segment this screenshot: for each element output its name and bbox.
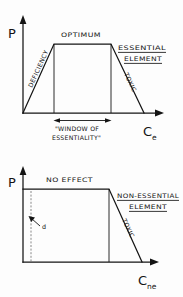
x-axis-label-base-essential: C [143, 124, 152, 139]
y-axis-essential [20, 15, 27, 113]
callout-non-essential-element: NON-ESSENTIAL ELEMENT [117, 192, 179, 211]
region-label-toxic-essential: TOXIC [123, 71, 139, 93]
essential-element-svg: P C e DEFICIENCY OPTIMUM TOXIC ESSENTIAL… [0, 0, 183, 150]
region-label-optimum: OPTIMUM [61, 31, 101, 38]
callout-essential-element: ESSENTIAL ELEMENT [118, 44, 166, 63]
y-axis-label-nonessential: P [8, 175, 16, 190]
x-axis-label-sub-essential: e [152, 133, 157, 142]
x-axis-label-essential: C e [143, 124, 157, 142]
window-measure-arrow [54, 118, 112, 123]
pointer-arrow-d [29, 216, 41, 226]
x-axis-label-nonessential: C ne [138, 273, 157, 291]
callout-line1-essential: ESSENTIAL [118, 44, 166, 51]
x-axis-nonessential [23, 259, 159, 266]
non-essential-element-svg: d P C ne NO EFFECT TOXIC NON-ESSENTIAL E… [0, 150, 183, 297]
x-axis-label-base-nonessential: C [138, 273, 147, 288]
y-axis-label-essential: P [8, 26, 16, 41]
pointer-label-d: d [42, 223, 46, 231]
svg-text:TOXIC: TOXIC [121, 217, 137, 239]
window-drop-lines-essential [54, 44, 111, 113]
caption-line2: ESSENTIALITY" [52, 134, 101, 141]
x-axis-label-sub-nonessential: ne [147, 282, 157, 291]
callout-line2-essential: ELEMENT [124, 55, 162, 62]
chart-non-essential-element: d P C ne NO EFFECT TOXIC NON-ESSENTIAL E… [0, 150, 183, 297]
chart-essential-element: P C e DEFICIENCY OPTIMUM TOXIC ESSENTIAL… [0, 0, 183, 150]
y-axis-nonessential [20, 166, 27, 262]
svg-text:TOXIC: TOXIC [123, 71, 139, 93]
region-label-no-effect: NO EFFECT [46, 176, 93, 183]
region-label-toxic-nonessential: TOXIC [121, 217, 137, 239]
region-label-deficiency: DEFICIENCY [27, 49, 50, 89]
callout-line1-nonessential: NON-ESSENTIAL [117, 192, 179, 199]
caption-line1: "WINDOW OF [55, 125, 99, 132]
svg-text:DEFICIENCY: DEFICIENCY [27, 49, 50, 89]
callout-line2-nonessential: ELEMENT [129, 203, 167, 210]
caption-window-of-essentiality: "WINDOW OF ESSENTIALITY" [52, 125, 101, 141]
figure-root: P C e DEFICIENCY OPTIMUM TOXIC ESSENTIAL… [0, 0, 183, 297]
